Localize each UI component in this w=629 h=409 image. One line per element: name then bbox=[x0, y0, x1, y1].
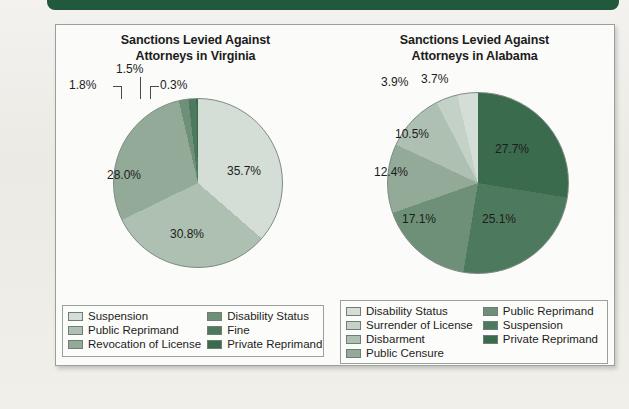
pie-area-alabama: 27.7% 25.1% 17.1% 12.4% 10.5% 3.9% 3.7% bbox=[335, 64, 614, 276]
legend-label-6: Private Reprimand bbox=[503, 333, 598, 346]
chart-title-virginia-line2: Attorneys in Virginia bbox=[56, 49, 335, 65]
legend-swatch-icon-4 bbox=[483, 307, 498, 316]
legend-item-disability-status[interactable]: Disability Status bbox=[207, 310, 322, 323]
pie-label-virginia-5: 0.3% bbox=[160, 78, 187, 92]
legend-swatch-icon-3 bbox=[207, 312, 222, 321]
legend-item-surrender-of-license[interactable]: Surrender of License bbox=[346, 319, 477, 332]
legend-virginia: Suspension Public Reprimand Revocation o… bbox=[62, 305, 324, 357]
pie-label-alabama-5: 3.9% bbox=[381, 75, 408, 89]
pie-label-virginia-3: 1.8% bbox=[69, 78, 96, 92]
chart-title-alabama-line2: Attorneys in Alabama bbox=[335, 49, 614, 65]
legend-label-2: Disbarment bbox=[366, 333, 425, 346]
pie-label-alabama-3: 12.4% bbox=[374, 165, 408, 179]
legend-swatch-icon-3 bbox=[346, 349, 361, 358]
legend-swatch-icon-4 bbox=[207, 326, 222, 335]
legend-grid-virginia: Suspension Public Reprimand Revocation o… bbox=[68, 310, 318, 351]
legend-swatch-icon-6 bbox=[483, 335, 498, 344]
legend-label-5: Private Reprimand bbox=[227, 338, 322, 351]
pie-label-virginia-0: 35.7% bbox=[227, 164, 261, 178]
pie-label-alabama-2: 17.1% bbox=[402, 212, 436, 226]
pie-label-alabama-1: 25.1% bbox=[482, 212, 516, 226]
legend-swatch-icon-5 bbox=[207, 340, 222, 349]
legend-item-disbarment[interactable]: Disbarment bbox=[346, 333, 477, 346]
chart-title-virginia: Sanctions Levied Against Attorneys in Vi… bbox=[56, 33, 335, 64]
pie-label-alabama-0: 27.7% bbox=[495, 142, 529, 156]
legend-label-0: Suspension bbox=[88, 310, 148, 323]
legend-item-private-reprimand[interactable]: Private Reprimand bbox=[483, 333, 602, 346]
pie-label-alabama-6: 3.7% bbox=[421, 72, 448, 86]
chart-title-alabama: Sanctions Levied Against Attorneys in Al… bbox=[335, 33, 614, 64]
legend-label-3: Disability Status bbox=[227, 310, 309, 323]
chart-panel-alabama: Sanctions Levied Against Attorneys in Al… bbox=[335, 25, 614, 365]
legend-label-2: Revocation of License bbox=[88, 338, 201, 351]
leader-line-virginia-4 bbox=[140, 77, 141, 99]
pie-label-alabama-4: 10.5% bbox=[395, 127, 429, 141]
legend-swatch-icon-2 bbox=[68, 340, 83, 349]
pie-label-virginia-2: 28.0% bbox=[107, 168, 141, 182]
legend-label-3: Public Censure bbox=[366, 347, 444, 360]
legend-swatch-icon-0 bbox=[346, 307, 361, 316]
legend-grid-alabama: Disability Status Surrender of License D… bbox=[346, 305, 602, 360]
legend-label-5: Suspension bbox=[503, 319, 563, 332]
legend-swatch-icon-5 bbox=[483, 321, 498, 330]
legend-alabama: Disability Status Surrender of License D… bbox=[340, 300, 608, 364]
legend-label-4: Fine bbox=[227, 324, 249, 337]
legend-label-1: Surrender of License bbox=[366, 319, 473, 332]
pie-label-virginia-4: 1.5% bbox=[116, 62, 143, 76]
legend-label-0: Disability Status bbox=[366, 305, 448, 318]
legend-item-public-censure[interactable]: Public Censure bbox=[346, 347, 477, 360]
legend-item-suspension[interactable]: Suspension bbox=[68, 310, 201, 323]
leader-line-virginia-5a bbox=[150, 86, 159, 87]
pie-chart-alabama bbox=[387, 92, 569, 274]
leader-line-virginia-5b bbox=[150, 86, 151, 99]
chart-title-alabama-line1: Sanctions Levied Against bbox=[400, 33, 549, 47]
pie-label-virginia-1: 30.8% bbox=[170, 227, 204, 241]
legend-swatch-icon-2 bbox=[346, 335, 361, 344]
legend-item-fine[interactable]: Fine bbox=[207, 324, 322, 337]
header-accent-bar bbox=[47, 0, 619, 10]
legend-swatch-icon-1 bbox=[346, 321, 361, 330]
chart-panel-virginia: Sanctions Levied Against Attorneys in Vi… bbox=[56, 25, 335, 365]
legend-item-revocation-of-license[interactable]: Revocation of License bbox=[68, 338, 201, 351]
legend-item-public-reprimand[interactable]: Public Reprimand bbox=[483, 305, 602, 318]
legend-swatch-icon-1 bbox=[68, 326, 83, 335]
legend-item-suspension[interactable]: Suspension bbox=[483, 319, 602, 332]
pie-chart-virginia bbox=[113, 98, 283, 268]
legend-item-public-reprimand[interactable]: Public Reprimand bbox=[68, 324, 201, 337]
pie-area-virginia: 35.7% 30.8% 28.0% 1.8% 1.5% 0.3% bbox=[56, 64, 335, 276]
leader-line-virginia-3b bbox=[121, 86, 122, 99]
chart-title-virginia-line1: Sanctions Levied Against bbox=[121, 33, 270, 47]
legend-item-disability-status[interactable]: Disability Status bbox=[346, 305, 477, 318]
legend-item-private-reprimand[interactable]: Private Reprimand bbox=[207, 338, 322, 351]
figure-card: Sanctions Levied Against Attorneys in Vi… bbox=[55, 24, 615, 366]
legend-swatch-icon-0 bbox=[68, 312, 83, 321]
legend-label-4: Public Reprimand bbox=[503, 305, 594, 318]
legend-label-1: Public Reprimand bbox=[88, 324, 179, 337]
